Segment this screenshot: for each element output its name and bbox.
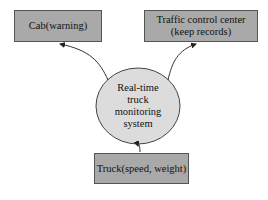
traffic-label-line1: Traffic control center	[156, 14, 245, 26]
arrow-system-to-traffic	[168, 44, 196, 80]
truck-label: Truck(speed, weight)	[97, 163, 186, 175]
system-label-line4: system	[96, 118, 180, 130]
truck-node: Truck(speed, weight)	[94, 153, 189, 184]
system-label-line2: truck	[96, 94, 180, 106]
cab-label: Cab(warning)	[29, 20, 87, 32]
arrow-system-to-cab	[60, 44, 108, 80]
system-label: Real-time truck monitoring system	[96, 82, 180, 130]
traffic-control-node: Traffic control center (keep records)	[144, 10, 258, 42]
system-label-line1: Real-time	[96, 82, 180, 94]
traffic-label-line2: (keep records)	[171, 26, 231, 38]
cab-node: Cab(warning)	[14, 10, 102, 42]
system-label-line3: monitoring	[96, 106, 180, 118]
